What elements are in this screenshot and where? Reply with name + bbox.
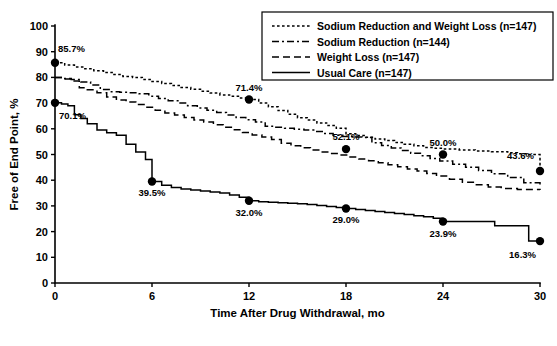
data-point-marker <box>439 150 447 158</box>
x-tick-label: 6 <box>149 290 155 302</box>
data-point-marker <box>51 59 59 67</box>
y-tick-label: 40 <box>36 174 48 186</box>
y-tick-label: 10 <box>36 251 48 263</box>
data-point-marker <box>245 95 253 103</box>
y-tick-label: 0 <box>42 277 48 289</box>
x-axis-title: Time After Drug Withdrawal, mo <box>210 307 384 319</box>
x-tick-label: 24 <box>437 290 450 302</box>
data-point-marker <box>342 145 350 153</box>
y-tick-label: 80 <box>36 71 48 83</box>
data-point-label: 23.9% <box>430 228 457 239</box>
curves-layer <box>55 63 540 241</box>
y-axis-title: Free of End Point, % <box>8 99 20 211</box>
y-tick-label: 100 <box>30 20 48 32</box>
data-point-marker <box>342 204 350 212</box>
data-point-marker <box>148 177 156 185</box>
y-tick-label: 30 <box>36 200 48 212</box>
y-tick-label: 90 <box>36 46 48 58</box>
data-point-marker <box>439 217 447 225</box>
series-line-3 <box>55 103 540 241</box>
data-point-label: 32.0% <box>236 207 263 218</box>
x-tick-label: 12 <box>243 290 255 302</box>
data-point-label: 85.7% <box>58 43 85 54</box>
survival-curve-chart: 01020304050607080901000612182430Time Aft… <box>0 0 557 346</box>
y-tick-label: 50 <box>36 149 48 161</box>
series-line-1 <box>55 77 540 185</box>
data-point-label: 70.1% <box>59 110 86 121</box>
series-line-2 <box>55 77 540 190</box>
chart-canvas: 01020304050607080901000612182430Time Aft… <box>0 0 557 346</box>
data-point-marker <box>536 167 544 175</box>
y-tick-label: 60 <box>36 123 48 135</box>
data-point-label: 29.0% <box>333 214 360 225</box>
data-point-label: 39.5% <box>139 187 166 198</box>
x-tick-label: 18 <box>340 290 352 302</box>
y-tick-label: 70 <box>36 97 48 109</box>
y-tick-label: 20 <box>36 226 48 238</box>
data-point-marker <box>245 197 253 205</box>
data-point-label: 71.4% <box>236 82 263 93</box>
x-tick-label: 30 <box>534 290 546 302</box>
x-tick-label: 0 <box>52 290 58 302</box>
data-point-label: 52.1% <box>333 131 360 142</box>
legend-box: Sodium Reduction and Weight Loss (n=147)… <box>262 12 553 80</box>
legend-label-1: Sodium Reduction (n=144) <box>317 36 450 48</box>
data-point-label: 50.0% <box>430 137 457 148</box>
data-point-marker <box>536 237 544 245</box>
markers-layer <box>51 59 544 246</box>
data-point-marker <box>51 99 59 107</box>
legend-label-2: Weight Loss (n=147) <box>317 51 419 63</box>
legend-label-3: Usual Care (n=147) <box>317 67 412 79</box>
legend-label-0: Sodium Reduction and Weight Loss (n=147) <box>317 20 536 32</box>
data-point-label: 43.6% <box>507 150 534 161</box>
data-point-label: 16.3% <box>509 249 536 260</box>
